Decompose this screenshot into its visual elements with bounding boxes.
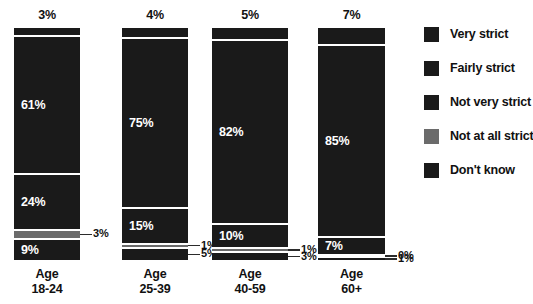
x-axis-category-label: Age40-59 bbox=[202, 267, 298, 298]
bar-segment-label: 7% bbox=[318, 240, 343, 253]
legend-swatch-icon bbox=[424, 27, 439, 42]
axis-label-line: Age bbox=[4, 267, 90, 282]
bar-segment: 10% bbox=[212, 225, 288, 247]
legend-swatch-icon bbox=[424, 129, 439, 144]
legend-swatch-icon bbox=[424, 61, 439, 76]
bar-segment-label: 85% bbox=[318, 135, 349, 148]
label-leader-line bbox=[384, 258, 397, 260]
bar-segment-label: 75% bbox=[122, 117, 153, 130]
bar-top-label: 3% bbox=[14, 8, 80, 22]
bar-segment: 9% bbox=[14, 240, 80, 260]
bar-segment bbox=[212, 28, 288, 39]
bar-top-label: 7% bbox=[318, 8, 385, 22]
bar-segment bbox=[122, 28, 188, 37]
bar-segment-label: 10% bbox=[212, 230, 243, 243]
bar-segment bbox=[14, 231, 80, 238]
axis-label-line: 60+ bbox=[308, 282, 395, 297]
bar-segment: 85% bbox=[318, 46, 385, 236]
label-leader-line bbox=[187, 254, 200, 256]
chart-plot-area: 3%3%61%24%9%Age18-244%1%5%75%15%Age25-39… bbox=[0, 0, 410, 304]
legend-item-label: Don't know bbox=[450, 163, 515, 177]
x-axis-category-label: Age60+ bbox=[308, 267, 395, 298]
bar-segment-label: 24% bbox=[14, 196, 45, 209]
x-axis-category-label: Age25-39 bbox=[112, 267, 198, 298]
legend-item[interactable]: Not at all strict bbox=[424, 126, 528, 146]
bar-segment-outside-label: 3% bbox=[301, 250, 317, 262]
legend-item[interactable]: Not very strict bbox=[424, 92, 528, 112]
bar-segment: 61% bbox=[14, 37, 80, 174]
bar-segment bbox=[318, 28, 385, 44]
bar-segment: 15% bbox=[122, 209, 188, 243]
bar-column: 85%7% bbox=[318, 28, 385, 260]
bar-segment bbox=[122, 245, 188, 247]
label-leader-line bbox=[187, 245, 200, 247]
legend-item-label: Not at all strict bbox=[450, 129, 533, 143]
legend-item-label: Fairly strict bbox=[450, 61, 515, 75]
bar-column: 61%24%9% bbox=[14, 28, 80, 260]
bar-segment: 24% bbox=[14, 175, 80, 229]
bar-column: 75%15% bbox=[122, 28, 188, 260]
axis-label-line: 25-39 bbox=[112, 282, 198, 297]
chart-legend: Very strictFairly strictNot very strictN… bbox=[424, 24, 528, 194]
bar-segment-label: 15% bbox=[122, 220, 153, 233]
bar-top-label: 5% bbox=[212, 8, 288, 22]
label-leader-line bbox=[287, 249, 300, 251]
bar-segment bbox=[212, 253, 288, 260]
bar-segment bbox=[122, 249, 188, 260]
axis-label-line: 40-59 bbox=[202, 282, 298, 297]
legend-item[interactable]: Don't know bbox=[424, 160, 528, 180]
legend-swatch-icon bbox=[424, 163, 439, 178]
label-leader-line bbox=[79, 234, 92, 236]
axis-label-line: Age bbox=[308, 267, 395, 282]
bar-segment-outside-label: 3% bbox=[93, 227, 109, 239]
bar-segment-label: 82% bbox=[212, 126, 243, 139]
axis-label-line: 18-24 bbox=[4, 282, 90, 297]
bar-segment: 75% bbox=[122, 39, 188, 207]
bar-segment-label: 9% bbox=[14, 244, 39, 257]
legend-item-label: Very strict bbox=[450, 27, 508, 41]
label-leader-line bbox=[287, 256, 300, 258]
bar-segment-label: 61% bbox=[14, 99, 45, 112]
bar-top-label: 4% bbox=[122, 8, 188, 22]
legend-item[interactable]: Fairly strict bbox=[424, 58, 528, 78]
bar-segment bbox=[14, 28, 80, 35]
legend-item-label: Not very strict bbox=[450, 95, 531, 109]
axis-label-line: Age bbox=[112, 267, 198, 282]
bar-segment-outside-label: 1% bbox=[398, 252, 414, 264]
bar-segment bbox=[318, 258, 385, 260]
label-leader-line bbox=[384, 255, 397, 257]
legend-swatch-icon bbox=[424, 95, 439, 110]
legend-item[interactable]: Very strict bbox=[424, 24, 528, 44]
bar-segment: 7% bbox=[318, 238, 385, 254]
axis-label-line: Age bbox=[202, 267, 298, 282]
bar-segment: 82% bbox=[212, 41, 288, 223]
x-axis-category-label: Age18-24 bbox=[4, 267, 90, 298]
bar-column: 82%10% bbox=[212, 28, 288, 260]
bar-segment bbox=[212, 249, 288, 251]
